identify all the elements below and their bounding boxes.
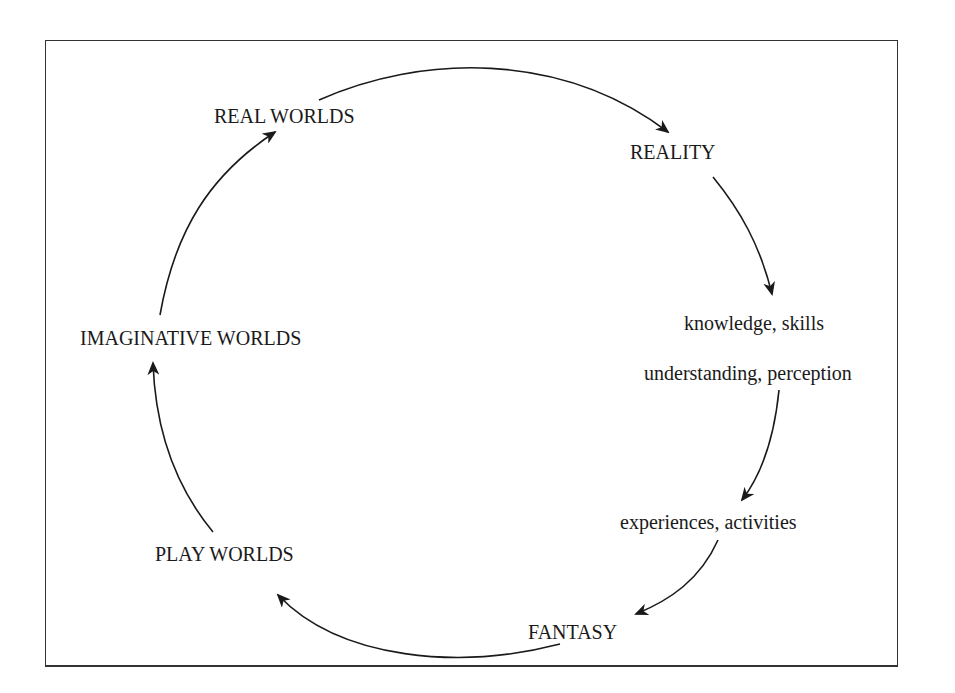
arrow-understanding-to-experiences [742,390,779,500]
node-imaginative-worlds: IMAGINATIVE WORLDS [80,328,301,348]
node-experiences-activities: experiences, activities [620,512,797,532]
node-play-worlds: PLAY WORLDS [155,544,294,564]
node-reality: REALITY [630,142,716,162]
node-fantasy: FANTASY [528,622,617,642]
arrow-fantasy-to-play-worlds [278,595,560,657]
node-knowledge-skills: knowledge, skills [684,313,824,333]
node-real-worlds: REAL WORLDS [214,106,355,126]
arrow-real-worlds-to-reality [319,68,668,132]
arrow-reality-to-knowledge [713,177,772,294]
node-understanding-perception: understanding, perception [644,363,852,383]
arrow-imaginative-to-real-worlds [160,132,275,315]
arrow-play-worlds-to-imaginative [153,363,213,532]
arrow-experiences-to-fantasy [636,540,718,614]
